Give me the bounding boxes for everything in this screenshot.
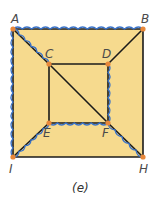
vertex-C (46, 61, 51, 66)
vertex-H (140, 154, 145, 159)
vertex-label-E: E (43, 126, 51, 140)
vertex-I (10, 154, 15, 159)
graph-diagram: ABCDEFIH (e) (0, 0, 158, 205)
vertex-label-C: C (45, 47, 54, 61)
vertex-label-I: I (9, 162, 13, 176)
wavy-highlight-I-A (11, 29, 13, 157)
vertex-F (105, 120, 110, 125)
vertex-label-D: D (102, 47, 111, 61)
vertex-E (46, 120, 51, 125)
vertex-label-H: H (139, 162, 148, 176)
vertex-B (140, 26, 145, 31)
vertex-label-F: F (102, 126, 110, 140)
wavy-highlight-A-B (13, 27, 143, 29)
vertex-label-A: A (10, 12, 19, 26)
vertex-D (105, 61, 110, 66)
figure-caption: (e) (72, 181, 89, 195)
vertex-A (10, 26, 15, 31)
vertex-label-B: B (141, 12, 149, 26)
